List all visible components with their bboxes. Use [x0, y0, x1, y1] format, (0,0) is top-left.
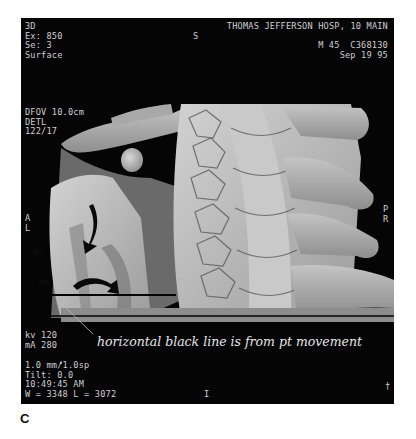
ct-3d-image-frame: 3DEx: 850Se: 3Surface DFOV 10.0cmDETL122…	[21, 18, 394, 404]
orientation-right: R	[383, 214, 388, 224]
orientation-anterior: A	[25, 213, 30, 223]
bone-fragment-round	[121, 148, 143, 172]
orientation-posterior: P	[383, 204, 388, 214]
window-level: W = 3348 L = 3072	[25, 390, 116, 400]
scan-date: Sep 19 95	[227, 51, 388, 61]
orientation-left-marker: AL	[25, 213, 30, 233]
orientation-left: L	[25, 223, 30, 233]
transverse-process-4	[291, 265, 394, 314]
ma-value: mA 280	[25, 341, 57, 351]
scale-marker-icon: †	[385, 382, 390, 392]
orientation-superior: S	[193, 32, 198, 42]
scan-info-top-left: 3DEx: 850Se: 3Surface	[25, 22, 63, 60]
orientation-right-marker: PR	[383, 204, 388, 224]
orientation-inferior: I	[204, 390, 209, 400]
image-index: 122/17	[25, 127, 84, 137]
scan-info-fov: DFOV 10.0cmDETL122/17	[25, 108, 84, 137]
render-type: Surface	[25, 51, 63, 61]
scan-info-exposure: kv 120mA 280	[25, 331, 57, 350]
panel-label: C	[20, 411, 29, 426]
scan-info-bottom-left: 1.0 mm/1.0spTilt: 0.010:49:45 AMW = 3348…	[25, 361, 116, 399]
arrowhead-marker-icon	[33, 248, 51, 286]
scan-info-top-right: THOMAS JEFFERSON HOSP, 10 MAIN M 45 C368…	[227, 22, 388, 60]
annotation-caption: horizontal black line is from pt movemen…	[97, 334, 362, 349]
transverse-process-3	[287, 213, 379, 258]
hospital-name: THOMAS JEFFERSON HOSP, 10 MAIN	[227, 22, 388, 32]
